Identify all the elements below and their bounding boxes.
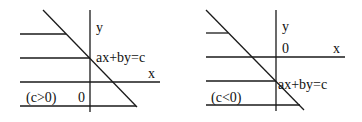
left-line-label: ax+by=c [96,51,145,65]
left-x-label: x [148,67,155,81]
left-origin-label: 0 [78,91,85,105]
left-condition-label: (c>0) [26,91,56,105]
right-origin-label: 0 [282,42,289,56]
right-condition-label: (c<0) [211,91,241,105]
right-y-label: y [282,20,289,34]
diagram-canvas: y ax+by=c x (c>0) 0 y 0 x ax+by=c (c<0) [0,0,362,122]
right-line-label: ax+by=c [278,78,327,92]
left-y-label: y [96,21,103,35]
right-x-label: x [333,42,340,56]
